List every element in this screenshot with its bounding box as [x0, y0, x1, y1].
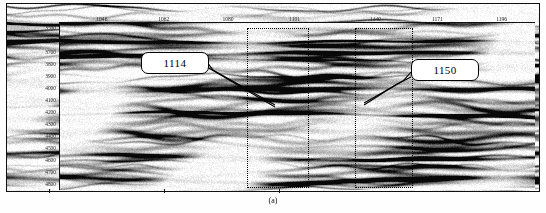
- depth-label-3900: 3900: [45, 73, 56, 79]
- depth-label-4000: 4000: [45, 85, 56, 91]
- depth-label-4500: 4500: [45, 145, 56, 151]
- seismic-traces: [60, 23, 535, 190]
- seismic-figure-frame: 102-pstm-in0811 - 1120-final-merged-inli…: [6, 3, 540, 192]
- depth-label-3700: 3700: [45, 49, 56, 55]
- caption-tick-right: [279, 189, 280, 193]
- depth-axis-labels: 3500360037003800390040004100420043004400…: [7, 22, 59, 190]
- depth-label-4700: 4700: [45, 169, 56, 175]
- caption-tick-left: [49, 189, 50, 193]
- figure-caption: (a): [0, 196, 546, 205]
- caption-tick-mid: [164, 189, 165, 193]
- depth-label-4200: 4200: [45, 109, 56, 115]
- depth-label-4400: 4400: [45, 133, 56, 139]
- depth-label-4600: 4600: [45, 157, 56, 163]
- callout-1114[interactable]: 1114: [141, 52, 209, 74]
- depth-label-4800: 4800: [45, 181, 56, 187]
- figure-root: 102-pstm-in0811 - 1120-final-merged-inli…: [0, 0, 546, 213]
- depth-label-4100: 4100: [45, 97, 56, 103]
- depth-label-4300: 4300: [45, 121, 56, 127]
- seismic-plot-area: [59, 22, 535, 190]
- callout-1150[interactable]: 1150: [411, 59, 479, 81]
- depth-label-3800: 3800: [45, 61, 56, 67]
- depth-label-3600: 3600: [45, 37, 56, 43]
- depth-label-3500: 3500: [45, 25, 56, 31]
